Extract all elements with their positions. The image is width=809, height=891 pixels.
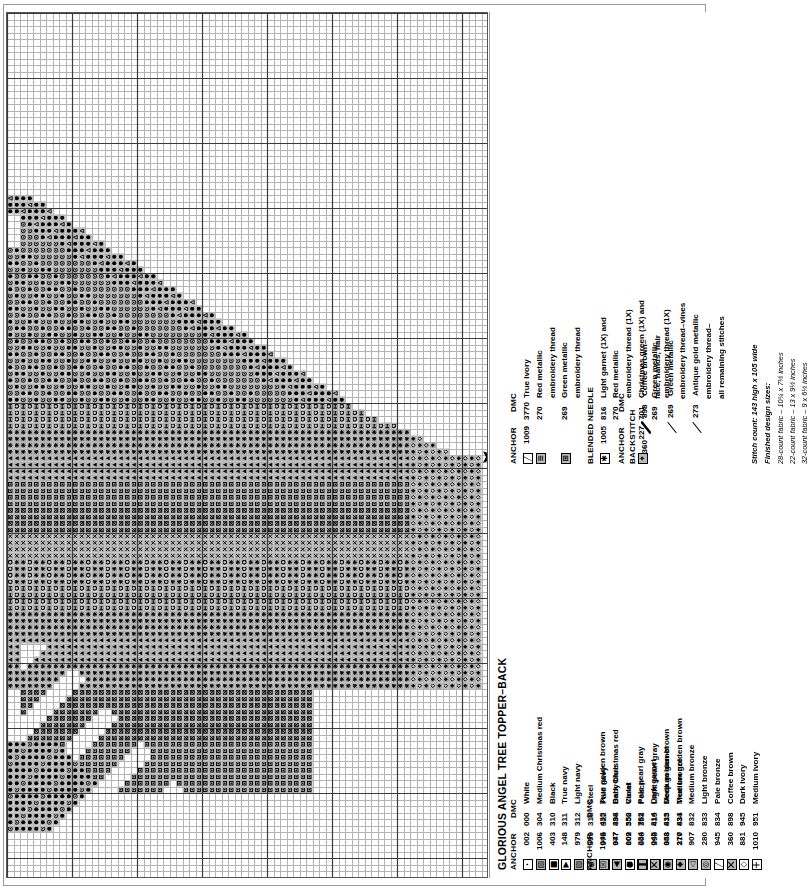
- legend-rotated-column: ◉043815Medium garnet: [663, 746, 676, 870]
- backstitch-dmc-number: 269: [667, 396, 675, 418]
- backstitch-row-continuation: embroidery thread–vines: [679, 303, 692, 464]
- finished-size-line: 32-count fabric – 9 x 6½ inches: [801, 363, 808, 464]
- legend-symbol-swatch: ≡: [536, 453, 546, 464]
- backstitch-row-continuation: all remaining stitches: [718, 316, 731, 464]
- legend-symbol-swatch: ◁: [688, 859, 698, 870]
- legend-dmc-number: 814: [650, 804, 658, 826]
- legend-col2-header-dmc: DMC: [586, 799, 594, 818]
- legend-col1-header-dmc: DMC: [510, 799, 518, 818]
- legend-rotated-column: ·002000White: [523, 782, 536, 870]
- legend-row[interactable]: embroidery thread: [574, 327, 587, 464]
- chart-grid-canvas: [7, 13, 487, 877]
- legend-row[interactable]: ◎280833Light bronze: [701, 755, 714, 870]
- legend-dmc-number: 312: [574, 804, 582, 826]
- legend-backstitch-header-anchor: ANCHOR: [618, 427, 626, 464]
- legend-symbol-swatch: ＋: [752, 859, 762, 870]
- legend-rotated-column: ▶148311True navy: [561, 766, 574, 870]
- legend-dmc-number: 435: [599, 804, 607, 826]
- legend-special-header-anchor: ANCHOR: [510, 427, 518, 464]
- backstitch-line-icon: [692, 421, 702, 434]
- legend-anchor-number: 102: [625, 832, 633, 856]
- legend-color-name: Dark garnet: [650, 759, 658, 804]
- backstitch-description: face, hands, hair: [654, 335, 662, 399]
- legend-row[interactable]: ◇881945Dark ivory: [739, 764, 752, 870]
- legend-color-name: embroidery thread: [549, 327, 557, 398]
- legend-anchor-number: 043: [663, 832, 671, 856]
- legend-row[interactable]: ⊞269Green metallic: [561, 342, 574, 464]
- cross-stitch-chart[interactable]: [6, 12, 488, 878]
- legend-row[interactable]: ≡270Red metallic: [536, 350, 549, 464]
- legend-symbol-swatch: ╱: [714, 859, 724, 870]
- legend-anchor-number: 403: [549, 832, 557, 856]
- legend-color-name: Medium garnet: [663, 746, 671, 804]
- legend-row[interactable]: ▶148311True navy: [561, 766, 574, 870]
- legend-color-name: Pale bronze: [714, 759, 722, 804]
- legend-row[interactable]: ╱945834Pale bronze: [714, 759, 727, 870]
- legend-symbol-swatch: ▨: [536, 859, 546, 870]
- legend-col2-header-anchor: ANCHOR: [586, 833, 594, 870]
- finished-size-line: 28-count fabric – 10¼ x 7½ inches: [777, 352, 784, 464]
- legend-row[interactable]: ⨉045814Dark garnet: [650, 759, 663, 870]
- legend-symbol-swatch: ╱: [523, 453, 533, 464]
- legend-anchor-number: 1006: [536, 832, 544, 856]
- backstitch-row[interactable]: 360898Coffee brown–: [641, 340, 654, 464]
- legend-dmc-number: 3770: [523, 398, 531, 420]
- legend-color-name: Light navy: [574, 764, 582, 804]
- backstitch-row[interactable]: 273Antique gold metallic: [692, 314, 705, 464]
- backstitch-dmc-number: 273: [692, 396, 700, 418]
- backstitch-row-continuation: embroidery thread–: [705, 323, 718, 464]
- legend-color-name: White: [523, 782, 531, 804]
- legend-dmc-number: 832: [688, 804, 696, 826]
- legend-row[interactable]: ＋1010951Medium ivory: [752, 752, 765, 870]
- legend-color-name: True ivory: [523, 359, 531, 398]
- legend-dmc-number: 951: [752, 804, 760, 826]
- legend-rotated-column: ╱10093770True ivory: [523, 359, 536, 464]
- backstitch-anchor-number: 360: [641, 440, 649, 464]
- legend-color-name: Violet: [625, 782, 633, 804]
- legend-anchor-number: 360: [727, 832, 735, 856]
- legend-color-name: Light bronze: [701, 755, 709, 804]
- blended-needle-heading: BLENDED NEEDLE: [587, 387, 595, 464]
- legend-anchor-number: 280: [701, 832, 709, 856]
- legend-symbol-swatch: ⊞: [561, 453, 571, 464]
- legend-anchor-number: 002: [523, 832, 531, 856]
- legend-rotated-column: ╱945834Pale bronze: [714, 759, 727, 870]
- legend-rotated-column: all remaining stitches: [718, 316, 731, 464]
- legend-rotated-column: ▨1006304Medium Christmas red: [536, 717, 549, 870]
- legend-symbol-swatch: ▧: [574, 859, 584, 870]
- backstitch-dmc-number: 898: [641, 396, 649, 418]
- legend-row[interactable]: ◉043815Medium garnet: [663, 746, 676, 870]
- legend-row[interactable]: ·002000White: [523, 782, 536, 870]
- finished-size-line: 22-count fabric – 13 x 9½ inches: [789, 359, 796, 464]
- legend-rotated-column: face, hands, hair: [654, 335, 667, 464]
- legend-symbol-swatch: ✦: [676, 859, 686, 870]
- legend-color-name: Coffee brown: [727, 752, 735, 804]
- legend-row[interactable]: │234762Pale pearl gray: [637, 746, 650, 870]
- legend-row[interactable]: ▨1006304Medium Christmas red: [536, 717, 549, 870]
- backstitch-line-icon: [667, 421, 677, 434]
- backstitch-description: all remaining stitches: [718, 316, 726, 399]
- legend-color-name: True golden brown: [599, 732, 607, 804]
- legend-row[interactable]: ◁907832Medium bronze: [688, 745, 701, 870]
- legend-rotated-column: embroidery thread–vines: [679, 303, 692, 464]
- legend-dmc-number: 269: [561, 398, 569, 420]
- legend-color-name: Dark Christmas red: [612, 729, 620, 804]
- legend-color-name: embroidery thread (1X): [625, 309, 633, 398]
- backstitch-description: Antique gold metallic: [692, 314, 700, 396]
- legend-row[interactable]: ╱10093770True ivory: [523, 359, 536, 464]
- legend-row[interactable]: ☒1046435True golden brown: [599, 732, 612, 870]
- legend-symbol-swatch: ☒: [599, 859, 609, 870]
- legend-dmc-number: 304: [536, 804, 544, 826]
- legend-color-name: Light garnet (1X) and: [600, 317, 608, 398]
- legend-col1-header-anchor: ANCHOR: [510, 833, 518, 870]
- legend-row[interactable]: ◀047498Dark Christmas red: [612, 729, 625, 870]
- finished-sizes-heading: Finished design sizes:: [764, 383, 772, 464]
- legend-symbol-swatch: ■: [549, 859, 559, 870]
- legend-rotated-column: 360898Coffee brown–: [641, 340, 654, 464]
- legend-rotated-column: ⊞269Green metallic: [561, 342, 574, 464]
- legend-dmc-number: 945: [739, 804, 747, 826]
- legend-anchor-number: 045: [650, 832, 658, 856]
- legend-color-name: Medium bronze: [688, 745, 696, 804]
- legend-color-name: Red metallic: [536, 350, 544, 398]
